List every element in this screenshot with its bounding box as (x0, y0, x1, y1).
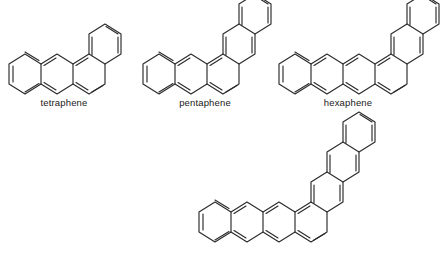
hexaphene-skeleton (276, 2, 436, 96)
pentaphene-skeleton (140, 2, 268, 96)
tetraphene-skeleton (4, 8, 128, 96)
heptaphene-skeleton (196, 136, 440, 254)
caption-hexaphene: hexaphene (288, 98, 408, 108)
structure-hexaphene (276, 2, 436, 96)
caption-tetraphene: tetraphene (4, 98, 124, 108)
structure-tetraphene (4, 8, 128, 96)
caption-pentaphene: pentaphene (145, 98, 265, 108)
structure-pentaphene (140, 2, 268, 96)
structure-heptaphene (196, 136, 440, 254)
